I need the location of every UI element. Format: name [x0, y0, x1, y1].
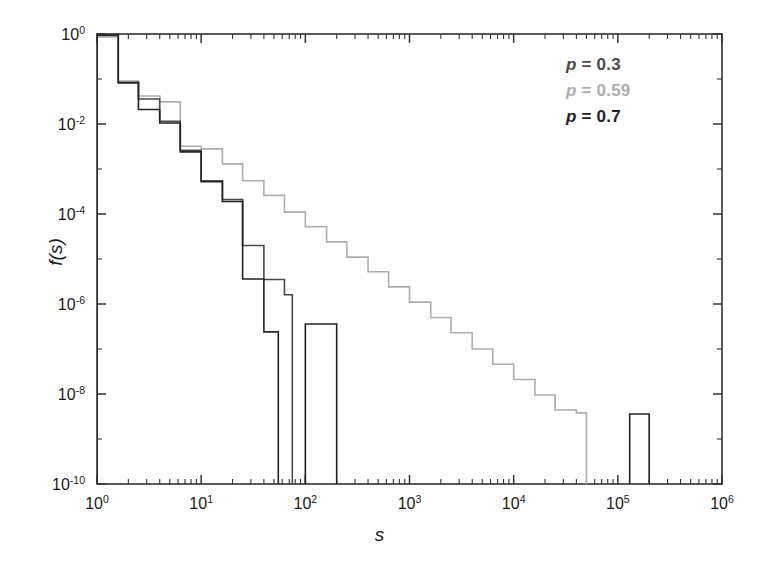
tick-label: 10-2 [58, 114, 85, 133]
legend-item-1: p = 0.59 [566, 78, 716, 104]
tick-label: 10-8 [58, 384, 85, 403]
legend-symbol: p [566, 55, 577, 74]
legend-symbol: p [566, 81, 577, 100]
tick-label: 103 [398, 493, 422, 512]
legend-value: 0.59 [597, 81, 631, 100]
legend-equals: = [577, 107, 597, 126]
data-series-line [97, 37, 586, 484]
chart-legend: p = 0.3p = 0.59p = 0.7 [566, 52, 716, 130]
tick-label: 100 [85, 493, 109, 512]
x-axis-label: s [0, 524, 759, 546]
legend-item-0: p = 0.3 [566, 52, 716, 78]
legend-equals: = [577, 81, 597, 100]
data-series-line [97, 35, 292, 484]
legend-equals: = [577, 55, 597, 74]
tick-label: 10-10 [52, 474, 85, 493]
tick-label: 10-4 [58, 204, 85, 223]
legend-symbol: p [566, 107, 577, 126]
data-series-line [97, 35, 278, 484]
tick-label: 104 [502, 493, 526, 512]
tick-label: 105 [606, 493, 630, 512]
figure-canvas: 10010110210310410510610010-210-410-610-8… [0, 0, 759, 569]
isolated-spike [305, 324, 336, 484]
tick-label: 106 [710, 493, 734, 512]
tick-label: 102 [294, 493, 318, 512]
legend-value: 0.3 [597, 55, 621, 74]
tick-label: 10-6 [58, 294, 85, 313]
legend-value: 0.7 [597, 107, 621, 126]
legend-item-2: p = 0.7 [566, 104, 716, 130]
isolated-spike [630, 414, 649, 484]
tick-label: 101 [189, 493, 213, 512]
tick-label: 100 [61, 24, 85, 43]
